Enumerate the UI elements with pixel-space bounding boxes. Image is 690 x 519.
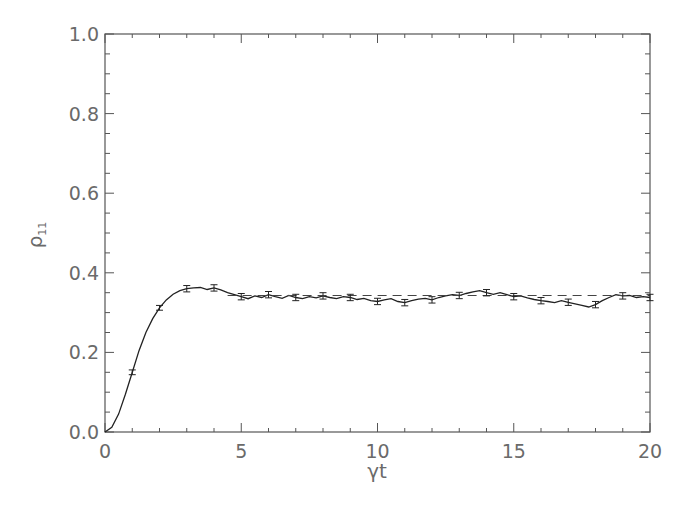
- x-tick-label: 0: [99, 440, 111, 462]
- error-bar: [592, 301, 599, 307]
- error-bar: [238, 293, 245, 299]
- x-tick-label: 5: [235, 440, 247, 462]
- y-tick-label: 0.2: [69, 341, 99, 363]
- x-tick-label: 20: [638, 440, 662, 462]
- simulation-curve: [105, 288, 650, 433]
- y-axis-ticks: 0.00.20.40.60.81.0: [69, 23, 650, 443]
- plot-frame: [105, 34, 650, 432]
- error-bar: [129, 370, 136, 375]
- x-tick-label: 15: [502, 440, 526, 462]
- y-tick-label: 0.6: [69, 182, 99, 204]
- error-bar: [156, 305, 163, 310]
- error-bar: [265, 292, 272, 298]
- y-tick-label: 0.8: [69, 103, 99, 125]
- y-tick-label: 0.0: [69, 421, 99, 443]
- line-chart: 05101520 0.00.20.40.60.81.0 γt ρ11: [0, 0, 690, 519]
- y-axis-label: ρ11: [23, 222, 49, 249]
- x-axis-label: γt: [367, 459, 387, 483]
- y-tick-label: 0.4: [69, 262, 99, 284]
- data-series: [105, 288, 650, 433]
- y-tick-label: 1.0: [69, 23, 99, 45]
- x-axis-ticks: 05101520: [99, 34, 662, 462]
